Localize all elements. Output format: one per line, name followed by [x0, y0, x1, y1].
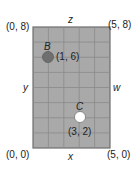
corner-label-top-left: (0, 8) — [6, 22, 29, 32]
side-label-bottom: x — [68, 152, 73, 162]
point-c-coords: (3, 2) — [68, 127, 91, 137]
corner-label-bottom-right: (5, 0) — [107, 150, 130, 160]
point-c-name: C — [76, 102, 83, 112]
point-b-name: B — [44, 42, 51, 52]
point-b-coords: (1, 6) — [56, 52, 79, 62]
side-label-top: z — [68, 15, 73, 25]
corner-label-bottom-left: (0, 0) — [6, 150, 29, 160]
point-c-marker — [75, 112, 86, 123]
corner-label-top-right: (5, 8) — [108, 20, 131, 30]
side-label-right: w — [113, 83, 120, 93]
point-b-marker — [43, 52, 54, 63]
side-label-left: y — [23, 83, 28, 93]
